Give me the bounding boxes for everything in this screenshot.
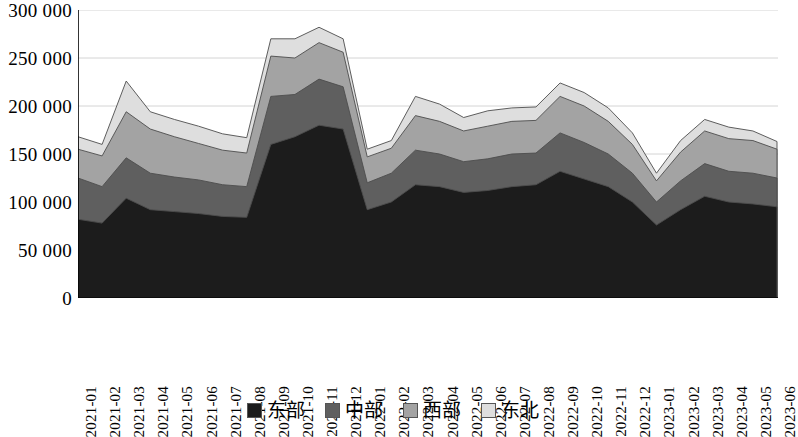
y-tick-label: 250 000 bbox=[8, 49, 72, 68]
y-tick-label: 100 000 bbox=[8, 193, 72, 212]
legend-item[interactable]: 东北 bbox=[481, 401, 539, 420]
legend-label: 中部 bbox=[345, 401, 383, 420]
legend-label: 东部 bbox=[267, 401, 305, 420]
y-tick-label: 300 000 bbox=[8, 1, 72, 20]
legend-swatch-icon bbox=[403, 403, 418, 418]
y-tick-label: 150 000 bbox=[8, 145, 72, 164]
legend-swatch-icon bbox=[247, 403, 262, 418]
legend-label: 西部 bbox=[423, 401, 461, 420]
y-tick-label: 200 000 bbox=[8, 97, 72, 116]
legend-swatch-icon bbox=[481, 403, 496, 418]
y-axis: 050 000100 000150 000200 000250 000300 0… bbox=[0, 0, 72, 300]
y-tick-label: 0 bbox=[62, 289, 72, 308]
y-tick-label: 50 000 bbox=[18, 241, 72, 260]
x-axis: 2021-012021-022021-032021-042021-052021-… bbox=[78, 300, 778, 392]
chart-legend: 东部中部西部东北 bbox=[0, 396, 786, 424]
legend-item[interactable]: 东部 bbox=[247, 401, 305, 420]
plot-area bbox=[78, 10, 778, 298]
legend-label: 东北 bbox=[501, 401, 539, 420]
plot-svg bbox=[78, 10, 778, 298]
legend-swatch-icon bbox=[325, 403, 340, 418]
legend-item[interactable]: 西部 bbox=[403, 401, 461, 420]
legend-item[interactable]: 中部 bbox=[325, 401, 383, 420]
